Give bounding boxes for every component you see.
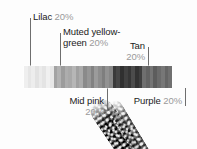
bar-segment-tan[interactable] [113,66,143,88]
callout-name-purple: Purple [134,95,161,106]
callout-label-mid-pink: Mid pink 20% [24,96,104,117]
callout-name-tan: Tan [130,40,145,51]
color-proportion-bar [24,66,172,88]
leader-line-muted-yellow-green [60,33,61,67]
callout-label-tan: Tan 20% [62,41,145,62]
bar-stripe [168,66,172,88]
callout-name-muted-yellow-green: Muted yellow- [63,26,120,37]
bar-segment-purple[interactable] [142,66,172,88]
bar-segment-muted-yellow-green[interactable] [54,66,84,88]
callout-pct-purple: 20% [163,95,182,106]
callout-name-mid-pink: Mid pink [69,95,104,106]
leader-line-lilac [30,18,31,67]
callout-pct-lilac: 20% [55,11,74,22]
beaded-strand-right-decoration [147,81,197,149]
callout-label-purple: Purple 20% [112,96,182,107]
leader-line-mid-pink [107,88,108,111]
leader-line-purple [185,88,186,106]
callout-name-lilac: Lilac [33,11,52,22]
leader-line-tan [148,47,149,67]
callout-label-lilac: Lilac 20% [33,12,73,23]
figure-canvas: Lilac 20% Muted yellow- green 20% Tan 20… [0,0,197,149]
bar-segment-lilac[interactable] [24,66,54,88]
bar-segment-mid-pink[interactable] [83,66,113,88]
callout-pct-mid-pink: 20% [24,107,104,118]
callout-pct-tan: 20% [62,52,145,63]
